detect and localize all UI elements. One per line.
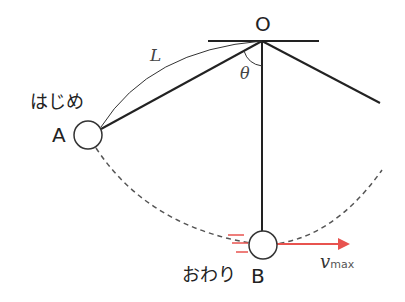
- velocity-label: vmax: [320, 253, 354, 271]
- ball-A: [74, 121, 102, 149]
- velocity-symbol: v: [320, 251, 330, 272]
- swing-path-dashed: [96, 148, 382, 245]
- end-point-label: B: [251, 266, 265, 286]
- pivot-label: O: [255, 14, 271, 34]
- string-right: [262, 41, 380, 103]
- ball-B: [249, 231, 277, 259]
- end-text: おわり: [182, 266, 236, 284]
- velocity-arrow-head: [338, 238, 350, 250]
- motion-lines: [228, 235, 248, 252]
- length-label: L: [150, 47, 161, 64]
- velocity-subscript: max: [330, 258, 354, 271]
- start-point-label: A: [52, 125, 66, 145]
- angle-label: θ: [240, 66, 250, 82]
- string-to-A: [101, 41, 262, 129]
- start-text: はじめ: [30, 93, 84, 111]
